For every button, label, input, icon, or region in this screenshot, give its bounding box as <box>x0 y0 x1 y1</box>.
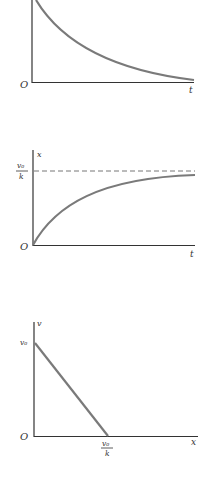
x-tick-denominator: k <box>105 449 110 458</box>
origin-label: O <box>20 79 28 90</box>
chart-linear: v v₀ O v₀ k x <box>20 319 198 458</box>
velocity-line <box>35 343 108 436</box>
chart-decay: O t <box>20 0 194 95</box>
decay-curve <box>36 0 194 80</box>
y-axis-label: v <box>37 319 42 328</box>
y-tick-label: v₀ <box>20 338 27 347</box>
x-tick-numerator: v₀ <box>102 439 109 448</box>
x-axis-label: t <box>189 85 193 95</box>
y-axis-label: x <box>37 150 42 159</box>
asymptote-numerator: v₀ <box>17 161 24 170</box>
x-axis-label: t <box>190 249 194 259</box>
origin-label: O <box>20 241 28 252</box>
chart-saturation: x v₀ k O t <box>16 150 195 259</box>
asymptote-denominator: k <box>19 172 24 181</box>
figure: O t x v₀ k O t v v₀ O v₀ k x <box>0 0 203 489</box>
x-axis-label: x <box>191 437 196 447</box>
origin-label: O <box>20 431 28 442</box>
saturation-curve <box>33 175 195 245</box>
